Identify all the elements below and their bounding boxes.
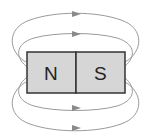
magnet-diagram: N S <box>0 0 151 138</box>
arrow-icon <box>72 31 81 37</box>
arrow-icon <box>72 125 81 131</box>
south-label: S <box>94 63 107 84</box>
arrow-icon <box>72 11 81 17</box>
north-label: N <box>44 63 58 84</box>
bar-magnet: N S <box>27 52 125 93</box>
